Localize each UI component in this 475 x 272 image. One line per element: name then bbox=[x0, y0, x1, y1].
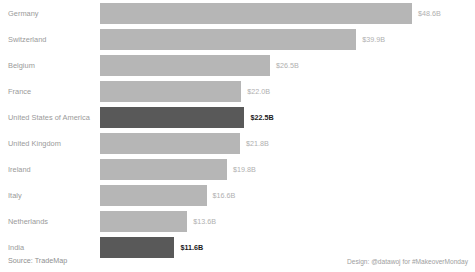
bar-row: Switzerland$39.9B bbox=[0, 26, 475, 52]
bar-value-label: $22.5B bbox=[250, 113, 273, 122]
bar[interactable] bbox=[100, 211, 187, 232]
bar-value-label: $21.8B bbox=[246, 139, 269, 148]
bar-row: France$22.0B bbox=[0, 78, 475, 104]
category-label: United States of America bbox=[8, 113, 94, 122]
bar[interactable] bbox=[100, 159, 227, 180]
category-label: Germany bbox=[8, 9, 94, 18]
category-label: United Kingdom bbox=[8, 139, 94, 148]
bar[interactable] bbox=[100, 55, 270, 76]
chart-footer: Source: TradeMap Design: @datawoj for #M… bbox=[0, 246, 475, 272]
bar-track: $39.9B bbox=[100, 26, 385, 52]
bar-track: $13.6B bbox=[100, 208, 216, 234]
bar[interactable] bbox=[100, 185, 207, 206]
bar-row: Netherlands$13.6B bbox=[0, 208, 475, 234]
bar-row: Italy$16.6B bbox=[0, 182, 475, 208]
bar-row: Germany$48.6B bbox=[0, 0, 475, 26]
bar-track: $22.5B bbox=[100, 104, 274, 130]
bar-value-label: $22.0B bbox=[247, 87, 270, 96]
category-label: Switzerland bbox=[8, 35, 94, 44]
chart-plot-area: Germany$48.6BSwitzerland$39.9BBelgium$26… bbox=[0, 0, 475, 244]
bar-row: United States of America$22.5B bbox=[0, 104, 475, 130]
bar-chart: Germany$48.6BSwitzerland$39.9BBelgium$26… bbox=[0, 0, 475, 272]
category-label: Belgium bbox=[8, 61, 94, 70]
bar-value-label: $13.6B bbox=[193, 217, 216, 226]
bar-track: $21.8B bbox=[100, 130, 269, 156]
category-label: France bbox=[8, 87, 94, 96]
category-label: Ireland bbox=[8, 165, 94, 174]
bar[interactable] bbox=[100, 29, 356, 50]
source-note: Source: TradeMap bbox=[8, 256, 67, 265]
bar-track: $19.8B bbox=[100, 156, 256, 182]
category-label: Netherlands bbox=[8, 217, 94, 226]
bar-highlighted[interactable] bbox=[100, 107, 244, 128]
bar[interactable] bbox=[100, 133, 240, 154]
bar-track: $26.5B bbox=[100, 52, 299, 78]
bar-value-label: $39.9B bbox=[362, 35, 385, 44]
bar-track: $22.0B bbox=[100, 78, 270, 104]
bar-track: $48.6B bbox=[100, 0, 441, 26]
bar-row: Ireland$19.8B bbox=[0, 156, 475, 182]
bar-row: United Kingdom$21.8B bbox=[0, 130, 475, 156]
bar-value-label: $19.8B bbox=[233, 165, 256, 174]
category-label: Italy bbox=[8, 191, 94, 200]
bar-track: $16.6B bbox=[100, 182, 235, 208]
bar-value-label: $16.6B bbox=[213, 191, 236, 200]
bar[interactable] bbox=[100, 3, 412, 24]
bar-value-label: $48.6B bbox=[418, 9, 441, 18]
bar-value-label: $26.5B bbox=[276, 61, 299, 70]
bar[interactable] bbox=[100, 81, 241, 102]
bar-row: Belgium$26.5B bbox=[0, 52, 475, 78]
design-credit: Design: @datawoj for #MakeoverMonday bbox=[347, 258, 468, 265]
